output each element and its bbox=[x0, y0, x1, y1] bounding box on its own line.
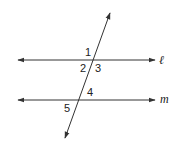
geometry-figure: ℓ m 1 2 3 4 5 bbox=[0, 0, 180, 150]
angle-4-label: 4 bbox=[87, 86, 93, 98]
diagram-canvas: ℓ m 1 2 3 4 5 bbox=[0, 0, 180, 150]
angle-3-label: 3 bbox=[95, 62, 101, 74]
line-l-label: ℓ bbox=[159, 53, 164, 67]
angle-5-label: 5 bbox=[64, 102, 70, 114]
angle-1-label: 1 bbox=[85, 46, 91, 58]
transversal-line bbox=[65, 13, 110, 138]
line-m-label: m bbox=[160, 92, 169, 106]
angle-2-label: 2 bbox=[80, 62, 86, 74]
